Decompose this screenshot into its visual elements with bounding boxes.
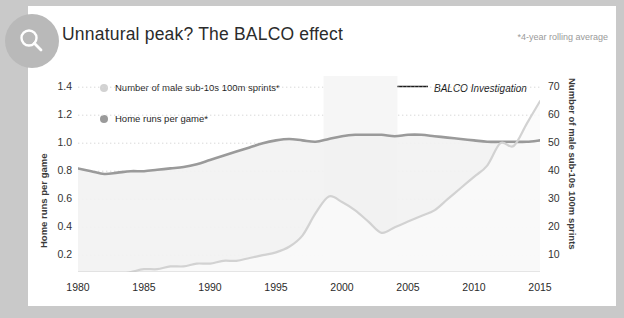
- screenshot-root: Unnatural peak? The BALCO effect *4-year…: [0, 0, 624, 318]
- y-tick-right: 70: [548, 80, 560, 92]
- magnifier-glyph: [18, 27, 46, 55]
- y-tick-left: 1.0: [46, 136, 72, 148]
- y-tick-right: 20: [548, 220, 560, 232]
- x-tick-label: 2015: [528, 281, 551, 293]
- y-tick-left: 0.6: [46, 192, 72, 204]
- y-tick-left: 0.2: [46, 248, 72, 260]
- y-axis-right-label: Number of male sub-10s 100m sprints: [567, 78, 578, 250]
- x-tick-label: 1980: [66, 281, 89, 293]
- y-tick-left: 1.2: [46, 108, 72, 120]
- x-tick-label: 1990: [198, 281, 221, 293]
- y-tick-left: 1.4: [46, 80, 72, 92]
- series-areas: [78, 101, 540, 272]
- footnote-note: *4-year rolling average: [517, 32, 608, 42]
- y-tick-right: 10: [548, 248, 560, 260]
- x-tick-label: 2010: [462, 281, 485, 293]
- x-tick-label: 1985: [132, 281, 155, 293]
- y-tick-left: 0.4: [46, 220, 72, 232]
- chart-plot-area: [78, 76, 540, 272]
- y-tick-right: 50: [548, 136, 560, 148]
- x-tick-label: 2000: [330, 281, 353, 293]
- y-tick-right: 40: [548, 164, 560, 176]
- x-tick-label: 2005: [396, 281, 419, 293]
- search-icon[interactable]: [5, 14, 59, 68]
- y-tick-left: 0.8: [46, 164, 72, 176]
- y-tick-right: 30: [548, 192, 560, 204]
- page-title: Unnatural peak? The BALCO effect: [62, 24, 343, 45]
- x-tick-label: 1995: [264, 281, 287, 293]
- y-tick-right: 60: [548, 108, 560, 120]
